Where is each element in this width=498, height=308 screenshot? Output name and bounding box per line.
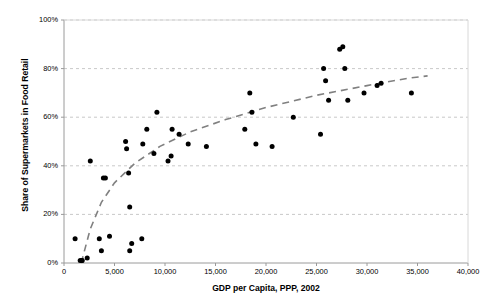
data-point [97, 236, 102, 241]
data-point [127, 248, 132, 253]
data-point [291, 115, 296, 120]
data-point [362, 90, 367, 95]
gridlines [64, 20, 468, 214]
data-point [123, 139, 128, 144]
data-point [73, 236, 78, 241]
trendline-path [81, 76, 427, 263]
data-point [318, 132, 323, 137]
data-point [169, 154, 174, 159]
data-point [80, 258, 85, 263]
data-point [154, 110, 159, 115]
data-point [379, 81, 384, 86]
data-point [151, 151, 156, 156]
data-point [85, 256, 90, 261]
data-point [88, 158, 93, 163]
data-point [103, 175, 108, 180]
data-point [342, 66, 347, 71]
data-point [409, 90, 414, 95]
data-point [345, 98, 350, 103]
data-point [326, 98, 331, 103]
data-point [139, 236, 144, 241]
data-point [170, 127, 175, 132]
data-point [323, 78, 328, 83]
data-point [140, 141, 145, 146]
data-point [177, 132, 182, 137]
data-point [186, 141, 191, 146]
tick-marks [61, 20, 468, 266]
data-point [340, 44, 345, 49]
data-point [127, 205, 132, 210]
scatter-chart: Share of Supermarkets in Food Retail GDP… [0, 0, 498, 308]
data-point [126, 171, 131, 176]
data-point [166, 158, 171, 163]
data-point [129, 241, 134, 246]
data-point [99, 248, 104, 253]
data-points [73, 44, 414, 263]
data-point [253, 141, 258, 146]
data-point [124, 146, 129, 151]
data-point [270, 144, 275, 149]
trendline [81, 76, 427, 263]
data-point [247, 90, 252, 95]
data-point [144, 127, 149, 132]
plot-area [0, 0, 498, 308]
data-point [242, 127, 247, 132]
data-point [204, 144, 209, 149]
data-point [321, 66, 326, 71]
data-point [249, 110, 254, 115]
data-point [107, 234, 112, 239]
